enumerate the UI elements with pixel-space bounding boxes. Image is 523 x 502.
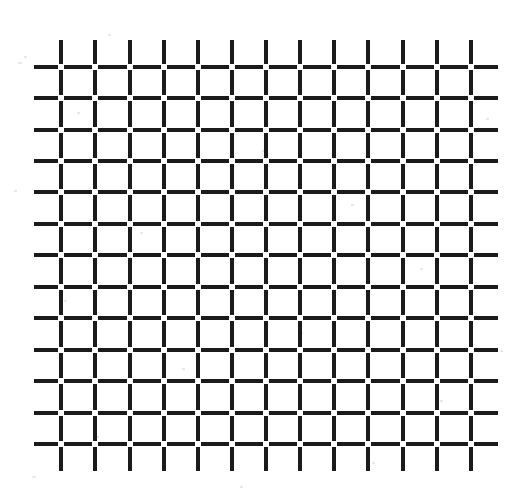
v-dash (93, 384, 97, 410)
v-dash (469, 290, 473, 315)
v-dash (162, 447, 166, 471)
v-dash (128, 70, 132, 95)
v-dash (332, 164, 336, 189)
h-dash (167, 222, 195, 226)
v-dash (128, 195, 132, 221)
h-dash (440, 96, 468, 100)
grid-illusion-figure (0, 0, 523, 502)
v-dash (298, 416, 302, 441)
v-dash (469, 164, 473, 189)
v-dash (435, 353, 439, 378)
h-dash (406, 442, 434, 446)
h-dash (64, 442, 92, 446)
illusion-canvas (0, 0, 523, 502)
v-dash (264, 133, 268, 158)
v-dash (162, 290, 166, 315)
v-dash (298, 290, 302, 315)
h-dash (371, 128, 400, 132)
v-dash (162, 353, 166, 378)
h-dash (133, 316, 161, 320)
h-dash (34, 159, 58, 163)
v-dash (162, 101, 166, 127)
v-dash (469, 195, 473, 221)
h-dash (235, 65, 263, 69)
h-dash (337, 128, 365, 132)
v-dash (93, 227, 97, 252)
h-dash (406, 285, 434, 289)
h-dash (269, 316, 297, 320)
v-dash (401, 164, 405, 189)
h-dash (371, 411, 400, 415)
v-dash (264, 321, 268, 347)
h-dash (371, 285, 400, 289)
v-dash (366, 416, 370, 441)
v-dash (93, 290, 97, 315)
h-dash (440, 222, 468, 226)
v-dash (366, 101, 370, 127)
h-dash (201, 285, 229, 289)
v-dash (264, 40, 268, 64)
v-dash (93, 195, 97, 221)
v-dash (435, 227, 439, 252)
v-dash (332, 321, 336, 347)
v-dash (59, 40, 63, 64)
h-dash (440, 348, 468, 352)
h-dash (303, 285, 331, 289)
v-dash (162, 164, 166, 189)
v-dash (469, 101, 473, 127)
h-dash (34, 285, 58, 289)
v-dash (366, 40, 370, 64)
v-dash (162, 133, 166, 158)
v-dash (128, 447, 132, 471)
v-dash (59, 195, 63, 221)
v-dash (332, 40, 336, 64)
v-dash (298, 133, 302, 158)
v-dash (366, 384, 370, 410)
h-dash (337, 285, 365, 289)
h-dash (269, 190, 297, 194)
h-dash (474, 96, 498, 100)
h-dash (269, 128, 297, 132)
h-dash (167, 159, 195, 163)
h-dash (235, 411, 263, 415)
h-dash (98, 285, 127, 289)
v-dash (230, 290, 234, 315)
v-dash (128, 164, 132, 189)
h-dash (133, 411, 161, 415)
h-dash (269, 411, 297, 415)
h-dash (303, 379, 331, 383)
h-dash (201, 379, 229, 383)
h-dash (269, 442, 297, 446)
v-dash (264, 227, 268, 252)
v-dash (435, 321, 439, 347)
v-dash (332, 290, 336, 315)
h-dash (98, 222, 127, 226)
v-dash (298, 447, 302, 471)
h-dash (167, 285, 195, 289)
h-dash (98, 348, 127, 352)
v-dash (128, 40, 132, 64)
h-dash (34, 190, 58, 194)
v-dash (401, 258, 405, 284)
h-dash (167, 65, 195, 69)
h-dash (303, 348, 331, 352)
h-dash (337, 411, 365, 415)
h-dash (235, 222, 263, 226)
v-dash (196, 70, 200, 95)
v-dash (162, 70, 166, 95)
h-dash (406, 65, 434, 69)
h-dash (269, 348, 297, 352)
v-dash (128, 133, 132, 158)
h-dash (406, 253, 434, 257)
v-dash (264, 164, 268, 189)
h-dash (133, 222, 161, 226)
h-dash (474, 316, 498, 320)
v-dash (366, 133, 370, 158)
v-dash (366, 164, 370, 189)
h-dash (371, 253, 400, 257)
h-dash (269, 65, 297, 69)
v-dash (435, 195, 439, 221)
v-dash (469, 70, 473, 95)
h-dash (337, 190, 365, 194)
v-dash (298, 70, 302, 95)
